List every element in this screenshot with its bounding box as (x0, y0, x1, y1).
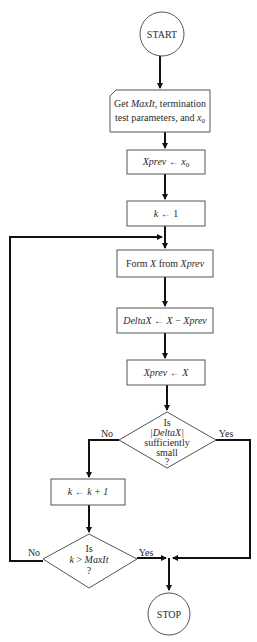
decision-max-no-label: No (28, 547, 40, 558)
init-k-label: k ← 1 (154, 208, 178, 219)
form-x-node: Form X from Xprev (117, 250, 213, 277)
input-node: Get MaxIt, termination test parameters, … (110, 90, 210, 132)
init-k-node: k ← 1 (127, 201, 205, 226)
start-node: START (140, 12, 184, 56)
increment-k-label: k ← k + 1 (68, 486, 109, 497)
stop-node: STOP (148, 593, 190, 635)
decision-max-line1: Is (85, 543, 92, 554)
decision-small-node: Is |DeltaX| sufficiently small ? No Yes (101, 412, 233, 468)
edge-decision2-no-loop (10, 237, 162, 561)
update-xprev-node: Xprev ← X (127, 360, 205, 385)
delta-label: DeltaX ← X − Xprev (122, 315, 207, 326)
decision-max-yes-label: Yes (139, 547, 154, 558)
decision-max-line2: k > MaxIt (70, 554, 109, 565)
increment-k-node: k ← k + 1 (51, 479, 125, 505)
update-xprev-label: Xprev ← X (143, 367, 190, 378)
edge-decision-no (89, 440, 119, 477)
delta-node: DeltaX ← X − Xprev (117, 308, 213, 333)
start-label: START (147, 29, 177, 40)
decision-max-line3: ? (87, 565, 92, 576)
decision-max-node: Is k > MaxIt ? No Yes (28, 534, 153, 588)
decision-small-no-label: No (101, 428, 113, 439)
flowchart: START Get MaxIt, termination test parame… (0, 0, 257, 642)
form-x-label: Form X from Xprev (126, 258, 205, 269)
decision-small-line5: ? (165, 456, 170, 467)
input-line1: Get MaxIt, termination (114, 98, 206, 109)
stop-label: STOP (157, 609, 182, 620)
decision-small-yes-label: Yes (219, 428, 234, 439)
init-xprev-node: Xprev ← x0 (127, 150, 205, 174)
